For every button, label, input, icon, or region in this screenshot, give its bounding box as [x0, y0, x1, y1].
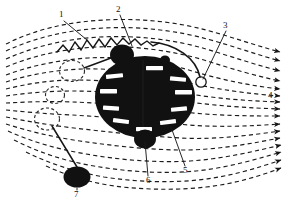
body-stripe [100, 89, 117, 93]
streamline [6, 19, 280, 52]
callout-leader-5 [171, 127, 185, 166]
callout-label-5: 5 [183, 166, 188, 175]
open-circle [35, 108, 60, 130]
open-circle [46, 87, 65, 104]
open-circle [60, 61, 85, 82]
callout-leader-3 [203, 31, 226, 79]
tether-line [52, 126, 77, 167]
callout-label-2: 2 [116, 5, 121, 14]
callout-label-1: 1 [59, 10, 64, 19]
body-stripe [175, 90, 192, 94]
callout-label-3: 3 [223, 21, 228, 30]
callout-label-4: 4 [268, 91, 273, 100]
diagram-figure: 1 2 3 4 5 6 7 [0, 0, 287, 207]
body-top-nub [160, 56, 170, 65]
central-dark-ellipse [95, 56, 195, 138]
diagram-canvas [0, 0, 287, 207]
body-stripe [146, 66, 163, 70]
callout-label-6: 6 [146, 176, 151, 185]
filled-satellite-top [110, 45, 134, 66]
callout-leader-1 [64, 21, 87, 40]
tether-line [84, 58, 111, 68]
small-open-circle [196, 77, 206, 87]
callout-label-7: 7 [74, 190, 79, 199]
filled-satellite-lower-left [64, 167, 91, 188]
